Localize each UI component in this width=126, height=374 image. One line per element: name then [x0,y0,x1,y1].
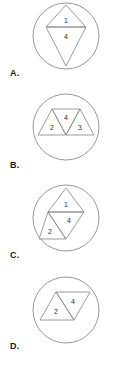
option-d-diagram: 2 4 [0,0,126,374]
answer-options-figure: 1 4 A. 2 4 3 B. 1 4 2 C. [0,0,126,374]
triangle-label-d-2: 2 [54,308,58,315]
option-label-d: D. [10,341,19,351]
triangle-label-d-4: 4 [71,298,75,305]
